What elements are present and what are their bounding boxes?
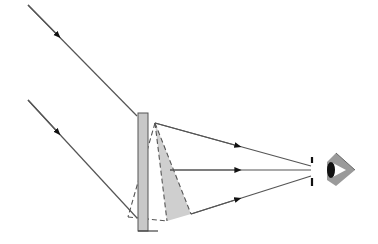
optics-diagram xyxy=(0,0,378,244)
arrow-icon xyxy=(28,5,58,36)
incident-rays xyxy=(28,5,137,218)
shaded-light-cone xyxy=(155,123,191,221)
arrow-icon xyxy=(28,100,58,133)
arrow-icon xyxy=(191,199,238,214)
diagram-canvas xyxy=(0,0,378,244)
glass-plate xyxy=(138,113,148,231)
arrow-icon xyxy=(155,123,238,146)
eye-icon xyxy=(327,153,355,186)
